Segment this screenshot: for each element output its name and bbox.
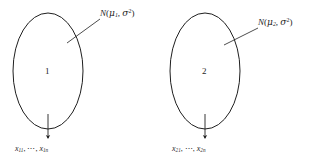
leader-line-1 [67,19,100,43]
sample-label-1: x11, ⋯, x1n [15,145,48,153]
population-number-2: 2 [202,67,207,76]
population-sampling-figure: 1 N(μ1, σ2) x11, ⋯, x1n 2 N(μ2, σ2) x21,… [0,0,313,162]
distribution-close-paren-2: ) [289,17,292,27]
sample-ellipsis-2: ⋯ [185,144,193,153]
sample-last-subscript-1: 1n [43,147,48,153]
leader-line-2 [224,28,258,45]
population-number-1: 1 [45,67,50,76]
distribution-label-2: N(μ2, σ2) [258,18,292,28]
sample-last-subscript-2: 2n [200,147,205,153]
distribution-label-1: N(μ1, σ2) [100,9,134,19]
sample-label-2: x21, ⋯, x2n [172,145,206,153]
distribution-close-paren-1: ) [131,8,134,18]
